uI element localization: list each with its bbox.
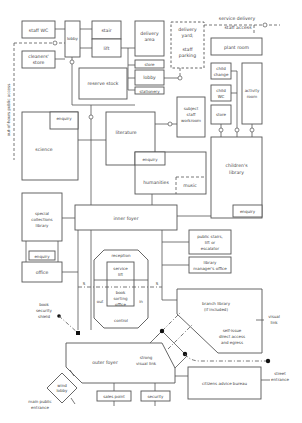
door-icon [178,76,182,80]
stair-room: stair [92,21,121,39]
svg-text:cleaners': cleaners' [28,54,49,59]
svg-text:store: store [216,112,227,117]
svg-text:room: room [247,94,257,99]
science-enquiry-desk: enquiry [50,112,78,129]
svg-text:visual link: visual link [136,361,157,366]
staff-wc-room: staff WC [22,21,55,38]
svg-text:staff access: staff access [224,25,252,30]
svg-text:enquiry: enquiry [56,116,72,121]
outer-foyer-room: outer foyer strong visual link [66,343,175,383]
store-children-room: store [211,105,231,124]
svg-text:citizens advice bureau: citizens advice bureau [202,381,247,386]
svg-text:book: book [39,302,49,307]
door-icon [263,23,267,27]
svg-text:area: area [144,37,154,42]
svg-text:control: control [114,318,128,323]
svg-text:staff: staff [182,47,193,52]
svg-text:lobby: lobby [56,388,68,393]
svg-text:shield: shield [38,314,50,319]
svg-text:link: link [270,320,278,325]
stationery-room: stationery [135,87,164,94]
svg-text:entrance: entrance [31,405,49,410]
svg-text:main public: main public [28,399,51,404]
office-room: office [22,262,62,282]
special-collections-room: special collections library [22,193,62,241]
svg-text:strong: strong [140,355,153,360]
sensor-left-label: S [83,281,86,286]
reserve-stock-room: reserve stock [79,68,127,99]
svg-text:escalator: escalator [201,246,220,251]
activity-room: activity room [242,63,262,124]
literature-enquiry-desk: enquiry [135,152,165,165]
svg-text:direct access: direct access [219,334,245,339]
svg-text:special: special [35,211,49,216]
svg-text:lift: lift [118,272,124,277]
door-icon [89,115,93,119]
childrens-enquiry-desk: enquiry [233,205,262,217]
svg-text:enquiry: enquiry [142,157,158,162]
special-enquiry-desk: enquiry [29,251,55,260]
svg-text:reserve stock: reserve stock [88,81,119,86]
svg-text:delivery: delivery [140,31,159,36]
svg-text:library: library [36,223,50,228]
svg-text:service delivery: service delivery [219,16,256,21]
door-icon [235,128,239,132]
door-icon [70,60,74,64]
svg-text:staff WC: staff WC [29,28,48,33]
svg-text:activity: activity [245,88,260,93]
main-entrance-label: main public entrance [28,399,51,410]
svg-text:subject: subject [184,106,199,111]
svg-text:parking: parking [179,53,196,58]
svg-text:stationery: stationery [139,89,160,94]
svg-text:stair: stair [101,28,111,33]
svg-text:change: change [214,72,229,77]
svg-text:outer foyer: outer foyer [92,360,118,365]
door-icon [250,128,254,132]
child-wc-room: child WC [211,85,231,101]
door-icon [168,122,172,126]
security-desk: security [141,391,170,401]
delivery-area-room: delivery area [135,21,164,56]
svg-text:enquiry: enquiry [34,254,50,259]
service-delivery-label: service delivery staff access [204,16,280,35]
svg-text:book: book [116,290,126,295]
book-security-label: book security shield [36,302,80,335]
citizens-advice-bureau: citizens advice bureau [188,367,261,399]
svg-text:store: store [144,62,155,67]
lobby-top-room: lobby [65,21,80,57]
svg-text:reception: reception [112,253,131,258]
svg-text:science: science [35,147,52,152]
door-icon [53,41,57,45]
inner-foyer-room: inner foyer [75,205,177,230]
svg-text:humanities: humanities [143,180,169,185]
sales-point: sales point [97,391,131,401]
out-of-hours-label: out-of-hours public access [6,84,11,136]
svg-text:literature: literature [115,130,136,135]
svg-text:library: library [229,170,244,175]
svg-text:plant room: plant room [224,45,250,50]
delivery-yard-area: delivery yard; staff parking [171,22,204,68]
plant-room: plant room [211,38,262,55]
svg-text:delivery: delivery [178,27,197,32]
svg-text:security: security [148,394,165,399]
svg-text:service: service [113,266,128,271]
public-stairs-room: public stairs, lift or escalator [189,230,231,254]
svg-text:out: out [97,299,104,304]
svg-text:sales point: sales point [103,394,125,399]
svg-text:in: in [139,299,143,304]
sensor-right-label: S [156,281,159,286]
cleaners-store-room: cleaners' store [22,51,55,68]
svg-text:inner foyer: inner foyer [113,216,138,221]
lobby-room: lobby [135,70,164,85]
svg-text:child: child [216,88,226,93]
svg-text:library: library [204,260,218,265]
svg-text:branch library: branch library [202,301,231,306]
store-room: store [135,60,164,68]
svg-text:yard;: yard; [182,33,194,38]
library-manager-office: library manager's office [189,257,231,273]
svg-text:staff: staff [187,112,196,117]
svg-text:entrance: entrance [271,377,289,382]
svg-text:lift: lift [104,46,110,51]
svg-text:enquiry: enquiry [240,209,256,214]
svg-text:children's: children's [225,163,248,168]
